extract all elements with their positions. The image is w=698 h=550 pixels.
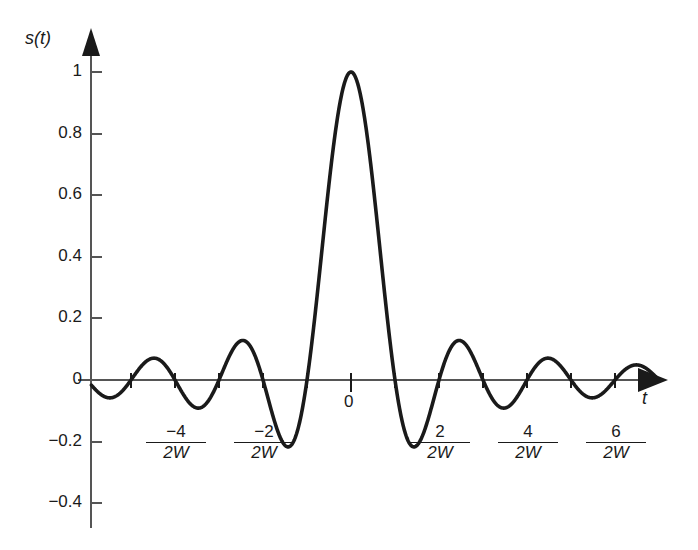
y-tick-label-1: 1 <box>40 61 82 81</box>
y-tick-label-0p2: 0.2 <box>40 307 82 327</box>
y-tick-label-neg0p2: −0.2 <box>28 431 82 451</box>
y-tick-label-0p4: 0.4 <box>40 246 82 266</box>
fraction-numerator: 6 <box>586 423 646 442</box>
x-tick-label-2-over-2w: 2 2W <box>410 423 470 463</box>
fraction-numerator: −4 <box>146 423 206 442</box>
fraction-numerator: −2 <box>234 423 294 442</box>
y-tick-label-neg0p4: −0.4 <box>28 492 82 512</box>
x-tick-marks <box>131 373 615 392</box>
fraction-denominator: 2W <box>234 442 294 462</box>
fraction-denominator: 2W <box>410 442 470 462</box>
x-tick-label-4-over-2w: 4 2W <box>498 423 558 463</box>
y-tick-label-0p8: 0.8 <box>40 123 82 143</box>
fraction-denominator: 2W <box>586 442 646 462</box>
x-tick-label-0: 0 <box>344 392 353 412</box>
sinc-curve <box>91 72 659 447</box>
x-tick-label-neg4-over-2w: −4 2W <box>146 423 206 463</box>
y-tick-label-0: 0 <box>40 369 82 389</box>
x-tick-label-6-over-2w: 6 2W <box>586 423 646 463</box>
fraction-denominator: 2W <box>146 442 206 462</box>
fraction-numerator: 4 <box>498 423 558 442</box>
y-axis-label: s(t) <box>25 28 51 49</box>
x-axis-label: t <box>642 388 647 409</box>
x-tick-label-neg2-over-2w: −2 2W <box>234 423 294 463</box>
plot-canvas <box>0 0 698 550</box>
y-tick-label-0p6: 0.6 <box>40 184 82 204</box>
fraction-numerator: 2 <box>410 423 470 442</box>
y-tick-marks <box>91 72 102 503</box>
sinc-function-figure: s(t) t 1 0.8 0.6 0.4 0.2 0 −0.2 −0.4 0 −… <box>0 0 698 550</box>
fraction-denominator: 2W <box>498 442 558 462</box>
y-axis <box>82 28 100 528</box>
